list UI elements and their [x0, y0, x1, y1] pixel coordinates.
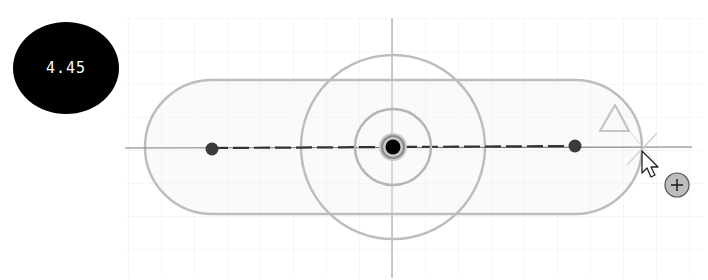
dimension-value-input[interactable]: 4.45: [13, 22, 119, 114]
add-cursor-badge-icon: [665, 173, 689, 197]
left-endpoint[interactable]: [206, 143, 219, 156]
right-endpoint[interactable]: [569, 140, 582, 153]
dimension-value: 4.45: [46, 59, 86, 77]
center-point[interactable]: [386, 140, 401, 155]
